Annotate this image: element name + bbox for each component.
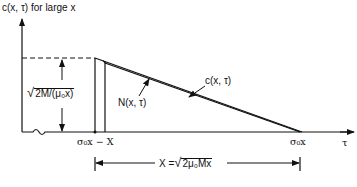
tick-label-left: σ₀x − X <box>77 137 113 147</box>
x-axis <box>22 130 352 135</box>
leader-n <box>139 79 149 96</box>
curve-label-c: c(x, τ) <box>205 76 231 86</box>
width-lhs: X = <box>159 158 174 169</box>
sqrt-icon: √ <box>174 155 181 170</box>
curve-c <box>95 58 302 132</box>
y-axis-label: c(x, τ) for large x <box>2 3 75 13</box>
curve-label-n: N(x, τ) <box>118 98 146 108</box>
height-dimension-label: √2M/(μ₀x) <box>27 86 74 99</box>
width-radicand: 2μ₀Mx <box>181 158 212 169</box>
x-axis-label: τ <box>342 138 348 148</box>
sqrt-icon: √ <box>27 85 34 100</box>
tick-point-left <box>94 131 97 134</box>
tick-label-right: σ₀x <box>290 137 306 147</box>
width-dimension-label: X =√2μ₀Mx <box>159 156 212 169</box>
height-radicand: 2M/(μ₀x) <box>34 88 74 99</box>
